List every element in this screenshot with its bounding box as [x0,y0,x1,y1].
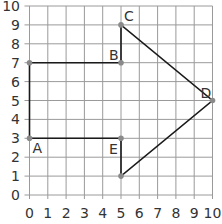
y-tick-label: 2 [11,149,20,165]
y-tick-label: 3 [11,130,20,146]
grid-svg: 012345678910012345678910 ABCDE [0,0,222,224]
y-tick-label: 5 [11,93,20,109]
x-tick-label: 3 [80,205,89,221]
vertex-label-b: B [109,47,119,63]
vertex-label-d: D [201,85,212,101]
y-tick-label: 1 [11,168,20,184]
x-tick-label: 1 [43,205,52,221]
vertex-label-c: C [124,8,134,24]
x-tick-label: 5 [117,205,126,221]
y-tick-label: 7 [11,55,20,71]
y-tick-label: 4 [11,111,20,127]
coordinate-grid-diagram: 012345678910012345678910 ABCDE [0,0,222,224]
x-tick-label: 0 [25,205,34,221]
vertex-dot [118,136,124,142]
y-tick-label: 9 [11,17,20,33]
grid-lines [25,6,213,199]
vertex-dot [27,136,33,142]
vertex-label-a: A [33,140,43,156]
x-tick-label: 6 [135,205,144,221]
x-tick-label: 9 [190,205,199,221]
x-tick-label: 8 [171,205,180,221]
y-tick-label: 10 [2,0,20,14]
x-tick-label: 10 [204,205,222,221]
y-tick-label: 8 [11,36,20,52]
y-tick-label: 0 [11,187,20,203]
vertex-dot [118,60,124,66]
vertex-labels: ABCDE [33,8,212,157]
vertex-dot [27,60,33,66]
axis-tick-labels: 012345678910012345678910 [2,0,221,221]
y-tick-label: 6 [11,74,20,90]
vertex-dot [118,173,124,179]
x-tick-label: 2 [62,205,71,221]
vertex-label-e: E [109,141,118,157]
x-tick-label: 7 [153,205,162,221]
vertex-dot [118,22,124,28]
x-tick-label: 4 [98,205,107,221]
